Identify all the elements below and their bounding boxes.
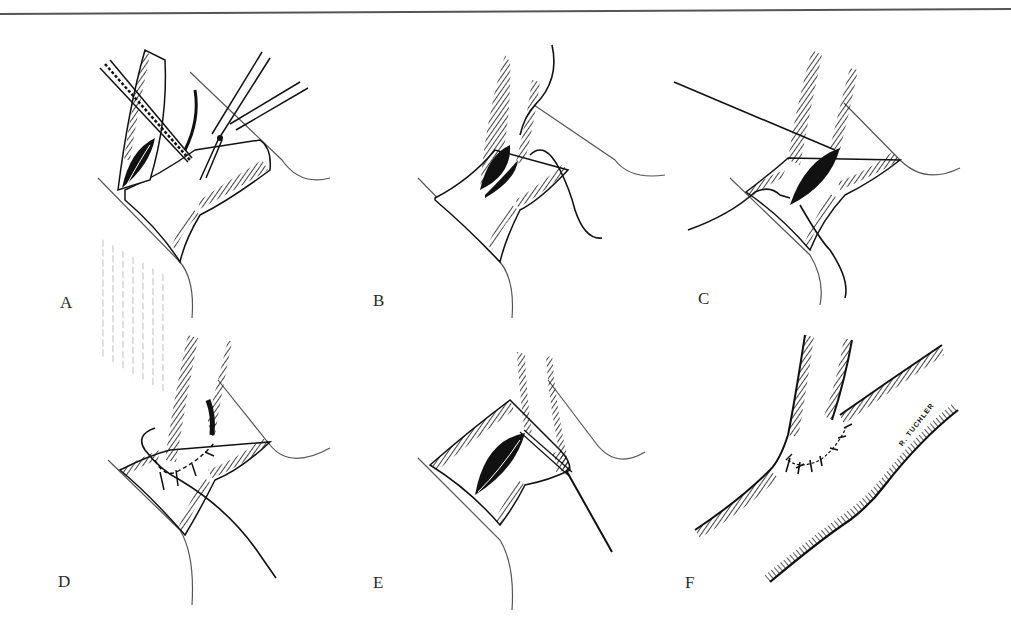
panel-c: C — [660, 0, 1011, 320]
panel-e-label: E — [373, 573, 383, 593]
panel-f-illustration — [660, 320, 1011, 630]
panel-f-label: F — [685, 573, 694, 593]
panel-a: A — [0, 0, 340, 320]
panel-b-illustration — [320, 0, 660, 320]
panel-e: E — [320, 320, 660, 630]
panel-c-label: C — [698, 289, 709, 309]
panel-d-label: D — [58, 572, 70, 592]
panel-b-label: B — [373, 291, 384, 311]
panel-d-illustration — [0, 320, 340, 630]
panel-a-label: A — [60, 293, 72, 313]
panel-a-illustration — [0, 0, 340, 320]
panel-e-illustration — [320, 320, 660, 630]
panel-d: D — [0, 320, 340, 630]
panel-c-illustration — [660, 0, 1011, 320]
panel-b: B — [320, 0, 660, 320]
panel-f: R. TUCHLER F — [660, 320, 1011, 630]
